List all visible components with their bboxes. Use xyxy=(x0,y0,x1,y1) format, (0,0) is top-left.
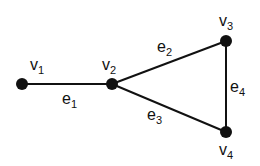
edge-label-e3: e3 xyxy=(147,106,162,126)
edge-label-e4: e4 xyxy=(230,78,245,98)
vertex-label-v2: v2 xyxy=(102,56,116,76)
edge-label-e2: e2 xyxy=(157,38,172,58)
vertex-v3 xyxy=(220,35,232,47)
edge-e3 xyxy=(112,84,226,132)
vertex-v4 xyxy=(220,126,232,138)
vertex-label-v4: v4 xyxy=(219,141,233,161)
vertex-label-v1: v1 xyxy=(30,56,44,76)
edge-label-e1: e1 xyxy=(62,90,77,110)
vertex-v1 xyxy=(16,78,28,90)
vertex-v2 xyxy=(106,78,118,90)
vertex-label-v3: v3 xyxy=(219,12,233,32)
graph-diagram: v1 v2 v3 v4 e1 e2 e3 e4 xyxy=(0,0,260,166)
graph-canvas: v1 v2 v3 v4 e1 e2 e3 e4 xyxy=(0,0,260,166)
